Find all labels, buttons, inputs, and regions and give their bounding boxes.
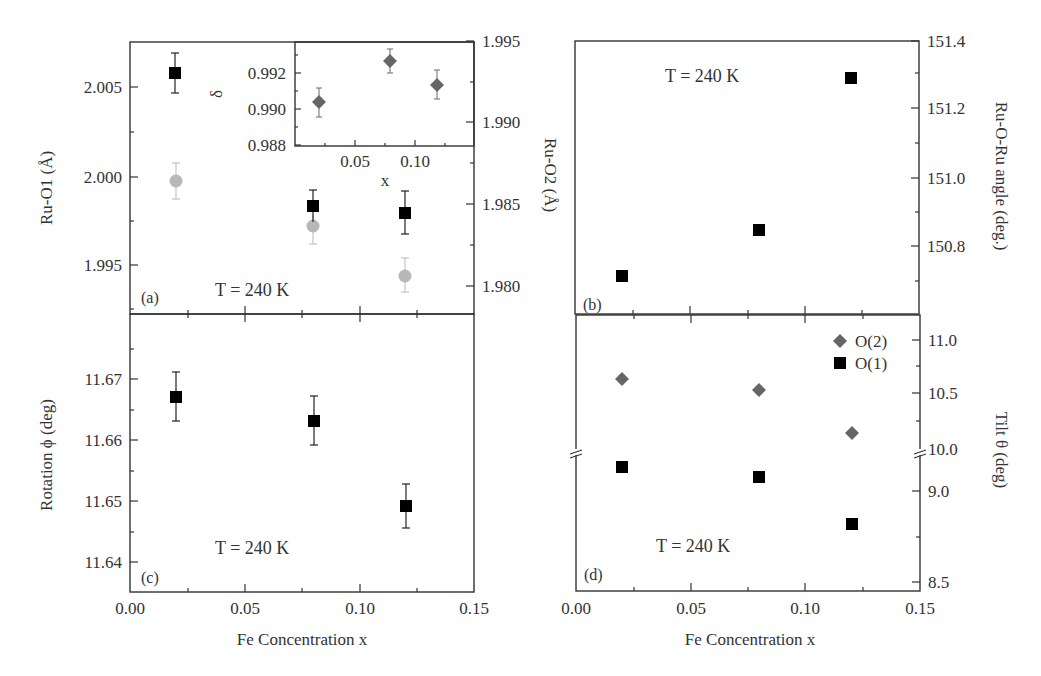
diamond-marker <box>430 78 444 92</box>
legend-o2-label: O(2) <box>855 332 887 351</box>
c-y-axis-title: Rotation ϕ (deg) <box>37 399 56 511</box>
circle-marker <box>399 270 412 283</box>
square-marker <box>400 500 412 512</box>
square-marker <box>753 471 765 483</box>
c-x-axis-title: Fe Concentration x <box>237 630 368 649</box>
square-marker <box>616 270 628 282</box>
legend-diamond-icon <box>833 334 847 348</box>
square-marker <box>399 207 411 219</box>
square-marker <box>616 461 628 473</box>
diamond-marker <box>312 95 326 109</box>
a-ytick-2005: 2.005 <box>84 78 122 97</box>
inset-y-title: δ <box>207 90 226 98</box>
series-o2 <box>615 372 859 440</box>
d-xtick-000: 0.00 <box>561 599 591 618</box>
d-y2-axis-title: Tilt θ (deg) <box>992 412 1011 488</box>
c-xtick-010: 0.10 <box>345 599 375 618</box>
c-ytick-1165: 11.65 <box>84 492 122 511</box>
a-ytick-1995: 1.995 <box>84 256 122 275</box>
panel-b: 151.4 151.2 151.0 150.8 Ru-O-Ru angle (d… <box>575 32 1011 314</box>
c-xtick-005: 0.05 <box>230 599 260 618</box>
b-y2tick-1512: 151.2 <box>927 99 965 118</box>
square-marker <box>845 72 857 84</box>
c-panel-tag: (c) <box>141 569 159 587</box>
diamond-marker <box>615 372 629 386</box>
c-temperature-label: T = 240 K <box>215 538 289 558</box>
a-y2tick-1995: 1.995 <box>482 32 520 51</box>
square-marker <box>307 200 319 212</box>
series-o1 <box>616 461 858 530</box>
a-ytick-2000: 2.000 <box>84 168 122 187</box>
figure-canvas: 2.005 2.000 1.995 1.995 1.990 1.985 1.98… <box>0 0 1041 676</box>
d-xtick-005: 0.05 <box>676 599 706 618</box>
c-xtick-015: 0.15 <box>459 599 489 618</box>
diamond-marker <box>383 54 397 68</box>
legend-o1-label: O(1) <box>855 354 887 373</box>
d-x-axis-title: Fe Concentration x <box>685 630 816 649</box>
d-panel-tag: (d) <box>584 566 603 584</box>
inset-xtick-010: 0.10 <box>400 152 430 171</box>
square-marker <box>170 391 182 403</box>
b-y2tick-1508: 150.8 <box>927 237 965 256</box>
inset-frame <box>295 42 474 146</box>
a-y2tick-1985: 1.985 <box>482 195 520 214</box>
legend-square-icon <box>834 357 846 369</box>
d-y2tick-105: 10.5 <box>928 384 958 403</box>
diamond-marker <box>845 426 859 440</box>
a-temperature-label: T = 240 K <box>215 280 289 300</box>
d-y2tick-90: 9.0 <box>928 482 949 501</box>
circle-marker <box>170 175 183 188</box>
d-y2tick-85: 8.5 <box>928 573 949 592</box>
square-marker <box>753 224 765 236</box>
panel-d: 11.0 10.5 10.0 9.0 8.5 0.00 0.05 0.10 0.… <box>561 315 1011 649</box>
c-ytick-1166: 11.66 <box>84 431 122 450</box>
square-marker <box>846 518 858 530</box>
a-y2-axis-title: Ru-O2 (Å) <box>541 138 560 212</box>
a-y2tick-1990: 1.990 <box>482 113 520 132</box>
panel-c: 11.67 11.66 11.65 11.64 0.00 0.05 0.10 0… <box>37 314 489 649</box>
d-y2tick-100: 10.0 <box>928 440 958 459</box>
c-ytick-1167: 11.67 <box>84 370 122 389</box>
square-marker <box>308 415 320 427</box>
c-xtick-000: 0.00 <box>115 599 145 618</box>
diamond-marker <box>752 383 766 397</box>
axis-break-marks <box>570 449 926 458</box>
inset-ytick-0988: 0.988 <box>248 136 286 155</box>
panel-a: 2.005 2.000 1.995 1.995 1.990 1.985 1.98… <box>37 32 560 314</box>
c-ytick-1164: 11.64 <box>84 553 122 572</box>
b-temperature-label: T = 240 K <box>665 66 739 86</box>
inset-x-title: x <box>381 171 390 190</box>
series-rotation <box>170 372 412 528</box>
panel-c-frame <box>130 314 474 592</box>
d-legend: O(2) O(1) <box>833 332 887 373</box>
series-ru-o2 <box>170 163 412 292</box>
inset-xtick-005: 0.05 <box>340 152 370 171</box>
b-y2tick-1510: 151.0 <box>927 169 965 188</box>
inset-ytick-0992: 0.992 <box>248 64 286 83</box>
d-temperature-label: T = 240 K <box>656 536 730 556</box>
a-panel-tag: (a) <box>141 289 159 307</box>
a-inset: 0.992 0.990 0.988 0.05 0.10 x δ <box>207 42 474 190</box>
b-y2tick-1514: 151.4 <box>927 32 966 51</box>
a-y-axis-title: Ru-O1 (Å) <box>37 151 56 225</box>
series-ru-o1 <box>169 53 411 234</box>
series-ru-o-ru-angle <box>616 72 857 282</box>
b-panel-tag: (b) <box>583 296 602 314</box>
square-marker <box>169 67 181 79</box>
a-y2tick-1980: 1.980 <box>482 277 520 296</box>
b-y2-axis-title: Ru-O-Ru angle (deg.) <box>992 102 1011 251</box>
d-xtick-015: 0.15 <box>905 599 935 618</box>
inset-ytick-0990: 0.990 <box>248 100 286 119</box>
d-xtick-010: 0.10 <box>790 599 820 618</box>
d-y2tick-110: 11.0 <box>928 331 957 350</box>
